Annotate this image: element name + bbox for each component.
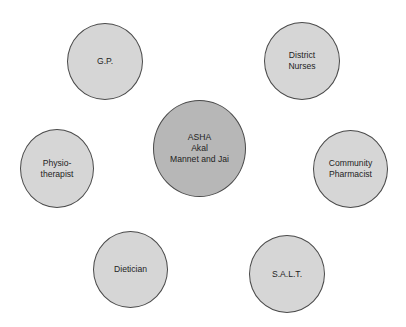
node-gp: G.P. [67, 23, 143, 100]
node-label: Physio- therapist [41, 158, 74, 180]
node-label: Dietician [114, 264, 147, 275]
node-salt: S.A.L.T. [249, 235, 325, 313]
node-label: Community Pharmacist [329, 158, 372, 180]
node-physiotherapist: Physio- therapist [20, 129, 94, 208]
node-label: S.A.L.T. [272, 269, 302, 280]
center-label: ASHA Akal Mannet and Jai [170, 132, 229, 165]
node-center-asha: ASHA Akal Mannet and Jai [153, 100, 246, 197]
node-label: G.P. [97, 56, 113, 67]
node-label: District Nurses [288, 50, 315, 72]
node-dietician: Dietician [93, 231, 168, 308]
node-community-pharmacist: Community Pharmacist [313, 130, 388, 208]
node-district-nurses: District Nurses [264, 22, 340, 100]
